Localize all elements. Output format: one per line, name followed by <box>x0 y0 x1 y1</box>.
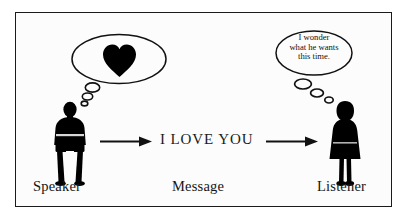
arrow-speaker-to-message <box>100 137 152 147</box>
arrow-message-to-listener <box>266 137 318 147</box>
speaker-thought-bubble <box>72 35 166 106</box>
speaker-trail-bubble-1 <box>85 83 99 92</box>
speaker-figure <box>54 102 86 186</box>
listener-trail-bubble-3 <box>325 97 333 103</box>
listener-trail-bubble-2 <box>311 89 324 97</box>
communication-diagram: I wonder what he wants this time. I LOVE… <box>0 0 410 221</box>
speaker-trail-bubble-3 <box>81 101 88 106</box>
label-speaker: Speaker <box>33 178 81 195</box>
listener-thought-line-3: this time. <box>283 52 345 62</box>
message-text: I LOVE YOU <box>160 131 253 148</box>
listener-figure <box>330 101 361 186</box>
label-message: Message <box>172 178 224 195</box>
heart-icon <box>103 45 136 78</box>
listener-trail-bubble-1 <box>295 79 312 89</box>
listener-thought-text: I wonder what he wants this time. <box>283 33 345 62</box>
speaker-trail-bubble-2 <box>82 93 92 100</box>
label-listener: Listener <box>317 178 366 195</box>
